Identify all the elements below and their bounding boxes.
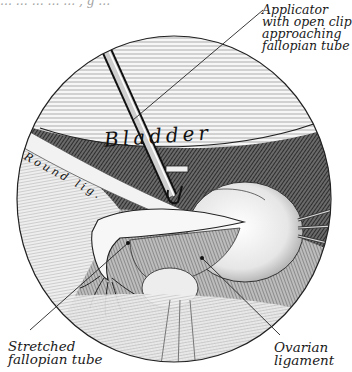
applicator-callout-line-4: fallopian tube xyxy=(262,40,352,52)
stretched-tube-callout-line-2: fallopian tube xyxy=(8,353,103,366)
stretched-tube-callout: Stretched fallopian tube xyxy=(8,340,103,366)
applicator-callout: Applicator with open clip approaching fa… xyxy=(262,4,352,52)
field-of-view-contents xyxy=(0,0,352,372)
ovarian-ligament-callout: Ovarian ligament xyxy=(274,341,334,367)
laparoscopic-view xyxy=(0,0,352,372)
illustration-stage: … … … … … , g … xyxy=(0,0,352,372)
ovarian-ligament-callout-line-2: ligament xyxy=(274,354,334,367)
